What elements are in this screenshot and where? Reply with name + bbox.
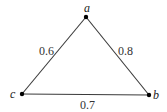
edge-a-c xyxy=(22,17,86,94)
edge-weight-a-b: 0.8 xyxy=(118,44,133,58)
triangle-graph: a b c 0.6 0.8 0.7 xyxy=(0,0,167,112)
node-c xyxy=(20,92,24,96)
edge-weight-a-c: 0.6 xyxy=(39,44,54,58)
node-label-c: c xyxy=(10,87,16,101)
node-b xyxy=(147,93,151,97)
node-a xyxy=(84,15,88,19)
node-label-b: b xyxy=(153,88,159,102)
edge-weight-c-b: 0.7 xyxy=(80,98,95,112)
node-label-a: a xyxy=(84,1,90,15)
edge-c-b xyxy=(22,94,149,95)
